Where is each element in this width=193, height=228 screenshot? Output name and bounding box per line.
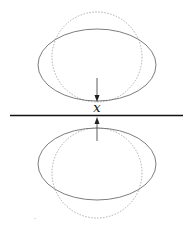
speck bbox=[34, 218, 36, 219]
x-label: x bbox=[93, 100, 101, 115]
upward-arrowhead-icon bbox=[95, 117, 100, 124]
diagram-canvas: x bbox=[0, 0, 193, 228]
lower-dotted-circle bbox=[52, 128, 142, 218]
